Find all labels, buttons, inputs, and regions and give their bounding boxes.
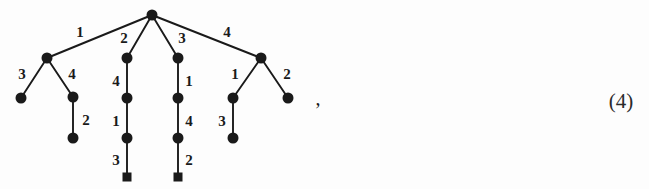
tree-node-disc [228, 133, 239, 144]
tree-node-disc [228, 93, 239, 104]
node-layer [16, 10, 294, 182]
edge-weight-label: 3 [18, 67, 26, 82]
equation-number: (4) [609, 91, 634, 112]
tree-node-disc [122, 53, 133, 64]
edge-weight-label: 3 [218, 114, 226, 129]
tree-node-disc [68, 133, 79, 144]
edge-weight-label: 1 [76, 25, 84, 40]
edge-weight-label: 2 [82, 113, 90, 128]
tree-edge [152, 15, 178, 58]
tree-node-disc [173, 93, 184, 104]
edge-weight-label: 2 [185, 153, 193, 168]
edge-weight-label: 1 [231, 67, 239, 82]
edge-weight-label: 3 [112, 153, 120, 168]
edge-weight-label: 2 [120, 31, 128, 46]
edge-weight-label: 4 [112, 74, 120, 89]
tree-edge [127, 15, 152, 58]
tree-node-disc [122, 93, 133, 104]
figure-canvas: 1234342413142123 , (4) [0, 0, 649, 189]
edge-weight-label: 4 [68, 67, 76, 82]
edge-weight-label: 1 [185, 74, 193, 89]
tree-node-disc [68, 92, 79, 103]
edge-weight-label: 4 [185, 114, 193, 129]
tree-node-disc [283, 93, 294, 104]
tree-node-disc [16, 93, 27, 104]
tree-edge [152, 15, 261, 58]
tree-node-disc [122, 133, 133, 144]
tree-node-disc [256, 53, 267, 64]
tree-node-disc [147, 10, 158, 21]
tree-node-square [174, 173, 183, 182]
tree-node-square [123, 173, 132, 182]
edge-weight-label: 1 [112, 114, 120, 129]
edge-weight-label: 2 [283, 67, 291, 82]
tree-node-disc [173, 133, 184, 144]
edge-weight-label: 3 [178, 31, 186, 46]
edge-layer [21, 15, 288, 177]
tree-node-disc [173, 53, 184, 64]
trailing-comma: , [316, 88, 321, 108]
tree-graphic [0, 0, 649, 189]
tree-edge [47, 15, 152, 58]
edge-weight-label: 4 [223, 25, 231, 40]
tree-node-disc [42, 53, 53, 64]
